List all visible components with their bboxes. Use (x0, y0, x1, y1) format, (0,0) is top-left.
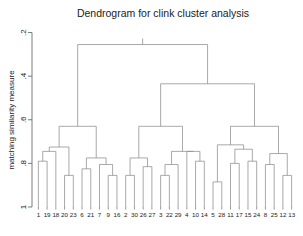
leaf-label: 16 (114, 211, 121, 218)
dendrogram-link (196, 161, 205, 207)
leaf-label: 28 (218, 211, 225, 218)
dendrogram-link (38, 161, 47, 207)
dendrogram-link (143, 167, 152, 207)
leaf-label: 25 (271, 211, 278, 218)
dendrogram-link (248, 161, 257, 207)
leaf-label: 13 (288, 211, 295, 218)
leaf-label: 27 (148, 211, 155, 218)
leaf-label: 30 (131, 211, 138, 218)
y-axis: .2.4.6.81 (19, 29, 32, 210)
chart-title: Dendrogram for clink cluster analysis (77, 7, 249, 19)
leaf-label: 22 (166, 211, 173, 218)
y-axis-tick-label: .4 (19, 72, 28, 79)
dendrogram-link (213, 182, 222, 207)
y-axis-tick-label: 1 (19, 204, 28, 209)
dendrogram-link (78, 45, 208, 127)
dendrogram-link (161, 175, 170, 207)
dendrogram-link (172, 151, 194, 164)
leaf-label: 26 (140, 211, 147, 218)
leaf-labels: 1191820236217916230262732229410145281117… (37, 207, 296, 218)
y-axis-tick-label: .8 (19, 159, 28, 166)
dendrogram-link (265, 164, 274, 207)
leaf-label: 23 (70, 211, 77, 218)
dendrogram-svg: Dendrogram for clink cluster analysis ma… (0, 0, 303, 236)
dendrogram-link (43, 151, 56, 207)
leaf-label: 29 (175, 211, 182, 218)
leaf-label: 18 (52, 211, 59, 218)
leaf-label: 12 (279, 211, 286, 218)
dendrogram-link (139, 126, 183, 158)
leaf-label: 3 (159, 211, 163, 218)
y-axis-tick-label: .6 (19, 116, 28, 123)
leaf-label: 6 (80, 211, 84, 218)
y-axis-label: matching similarity measure (7, 70, 16, 170)
dendrogram-link (187, 151, 200, 207)
leaf-label: 7 (98, 211, 102, 218)
dendrogram-branches (38, 39, 291, 207)
leaf-label: 8 (264, 211, 268, 218)
dendrogram-link (100, 164, 113, 207)
leaf-label: 10 (192, 211, 199, 218)
leaf-label: 5 (211, 211, 215, 218)
dendrogram-link (82, 169, 91, 207)
leaf-label: 20 (61, 211, 68, 218)
dendrogram-plot: Dendrogram for clink cluster analysis ma… (0, 0, 303, 236)
leaf-label: 11 (227, 211, 234, 218)
leaf-label: 4 (185, 211, 189, 218)
leaf-label: 9 (107, 211, 111, 218)
dendrogram-link (65, 175, 74, 207)
y-axis-tick-label: .2 (19, 29, 28, 36)
leaf-label: 17 (236, 211, 243, 218)
leaf-label: 24 (253, 211, 260, 218)
dendrogram-link (86, 158, 106, 169)
dendrogram-link (283, 175, 292, 207)
dendrogram-link (231, 163, 240, 207)
dendrogram-link (161, 84, 255, 127)
leaf-label: 15 (245, 211, 252, 218)
dendrogram-link (59, 126, 96, 158)
dendrogram-link (108, 175, 117, 207)
dendrogram-link (165, 164, 178, 207)
leaf-label: 14 (201, 211, 208, 218)
leaf-label: 19 (44, 211, 51, 218)
dendrogram-link (126, 175, 135, 207)
leaf-label: 1 (37, 211, 41, 218)
leaf-label: 21 (87, 211, 94, 218)
leaf-label: 2 (124, 211, 128, 218)
